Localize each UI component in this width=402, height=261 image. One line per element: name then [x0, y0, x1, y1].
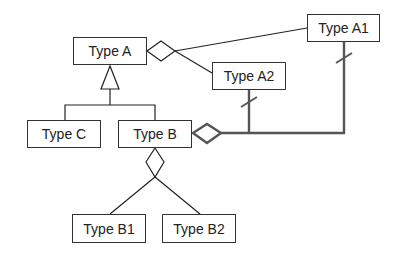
class-label: Type A2	[224, 68, 275, 84]
class-label: Type B2	[173, 221, 224, 237]
aggregation-diamond-type-b-emphasized	[193, 124, 221, 143]
class-label: Type B1	[83, 221, 134, 237]
class-box-type-c: Type C	[27, 120, 101, 148]
class-box-type-b: Type B	[118, 120, 192, 148]
class-label: Type C	[42, 126, 86, 142]
class-box-type-a1: Type A1	[307, 14, 380, 42]
class-box-type-a: Type A	[73, 37, 147, 65]
association-line-a-to-a2	[175, 51, 212, 73]
class-box-type-b1: Type B1	[72, 214, 146, 243]
association-line-b-to-b2	[155, 177, 200, 214]
association-line-a-to-a1	[175, 28, 307, 51]
class-label: Type B	[133, 126, 177, 142]
class-box-type-b2: Type B2	[162, 214, 236, 243]
class-label: Type A	[89, 43, 132, 59]
association-line-b-to-b1	[110, 177, 155, 214]
uml-class-diagram: Type A Type A1 Type A2 Type C Type B Typ…	[0, 0, 402, 261]
generalization-branch	[65, 105, 155, 120]
generalization-triangle	[101, 66, 119, 89]
aggregation-diamond-type-a	[147, 41, 175, 61]
aggregation-diamond-type-b	[146, 148, 164, 177]
class-label: Type A1	[318, 20, 369, 36]
class-box-type-a2: Type A2	[212, 62, 286, 90]
